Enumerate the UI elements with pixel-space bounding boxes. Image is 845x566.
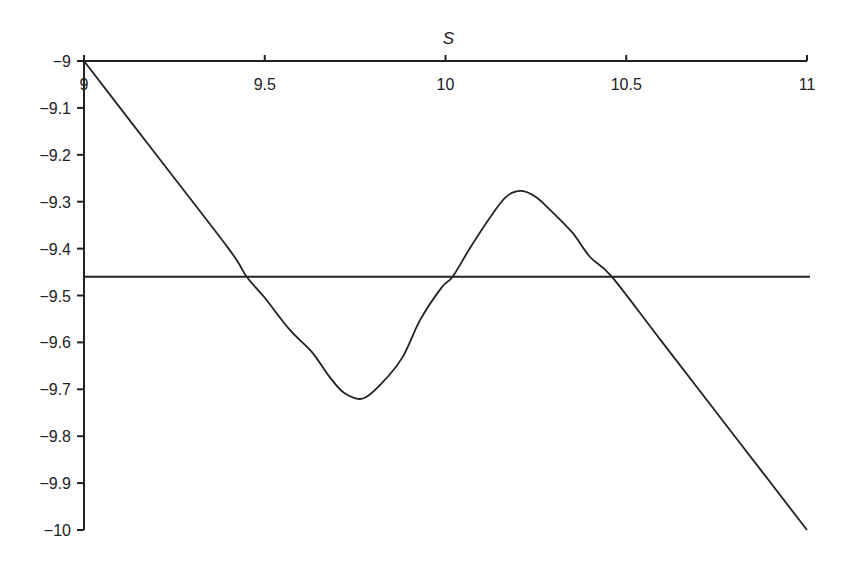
line-chart: 99.51010.511 −9−9.1−9.2−9.3−9.4−9.5−9.6−…: [0, 0, 845, 566]
y-tick-label: −9.3: [39, 194, 71, 211]
y-tick-label: −9: [53, 53, 71, 70]
x-axis: 99.51010.511: [80, 55, 816, 93]
y-tick-label: −9.1: [39, 100, 71, 117]
y-tick-label: −9.5: [39, 288, 71, 305]
y-tick-label: −10: [44, 522, 71, 539]
x-axis-title: S: [443, 29, 455, 48]
y-tick-label: −9.7: [39, 381, 71, 398]
y-tick-label: −9.9: [39, 475, 71, 492]
y-tick-label: −9.4: [39, 241, 71, 258]
x-tick-label: 11: [799, 76, 816, 93]
x-tick-label: 9.5: [254, 76, 276, 93]
y-axis: −9−9.1−9.2−9.3−9.4−9.5−9.6−9.7−9.8−9.9−1…: [39, 53, 84, 539]
y-tick-label: −9.6: [39, 334, 71, 351]
plot-area: [84, 61, 810, 530]
value-curve: [84, 61, 807, 530]
y-tick-label: −9.8: [39, 428, 71, 445]
y-tick-label: −9.2: [39, 147, 71, 164]
x-tick-label: 10.5: [611, 76, 642, 93]
x-tick-label: 10: [437, 76, 455, 93]
